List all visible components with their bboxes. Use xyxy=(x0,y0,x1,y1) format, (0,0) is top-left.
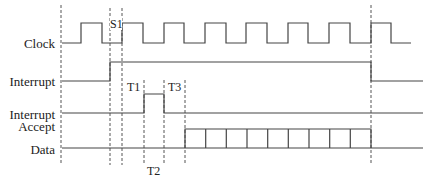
interrupt-label: Interrupt xyxy=(10,74,56,89)
timing-diagram: Clock Interrupt Interrupt Accept Data S1… xyxy=(0,0,436,187)
data-label: Data xyxy=(30,142,55,157)
marker-s1: S1 xyxy=(110,17,123,31)
interrupt-waveform xyxy=(62,62,423,81)
marker-t2: T2 xyxy=(147,164,160,178)
marker-t3: T3 xyxy=(168,80,181,94)
interrupt-accept-label-line2: Accept xyxy=(18,119,55,134)
data-bus-cells xyxy=(185,129,371,148)
marker-t1: T1 xyxy=(127,80,140,94)
interrupt-accept-waveform xyxy=(62,94,423,113)
clock-label: Clock xyxy=(24,36,56,51)
